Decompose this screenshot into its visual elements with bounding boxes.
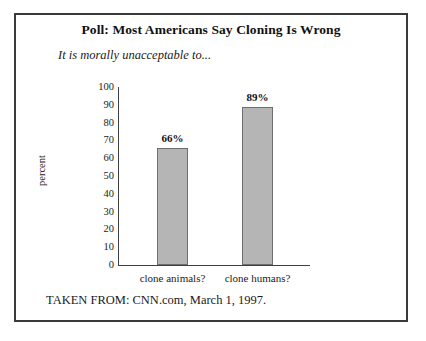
x-category-label: clone humans? — [217, 272, 298, 284]
y-axis-line — [118, 87, 119, 266]
y-axis-tick-labels: 1009080706050403020100 — [86, 15, 114, 320]
bar — [242, 107, 273, 265]
plot-area: 1009080706050403020100 percent 66%clone … — [16, 15, 406, 320]
y-tick-label: 10 — [86, 242, 114, 253]
source-caption: TAKEN FROM: CNN.com, March 1, 1997. — [46, 293, 266, 308]
poll-chart-figure: Poll: Most Americans Say Cloning Is Wron… — [14, 13, 408, 322]
y-tick-label: 0 — [86, 260, 114, 271]
x-category-label: clone animals? — [132, 272, 213, 284]
y-tick-label: 20 — [86, 224, 114, 235]
y-tick-label: 50 — [86, 171, 114, 182]
y-tick-label: 100 — [86, 82, 114, 93]
y-tick-label: 30 — [86, 207, 114, 218]
bar — [157, 148, 188, 265]
y-tick-label: 80 — [86, 118, 114, 129]
y-tick-label: 40 — [86, 189, 114, 200]
y-tick-label: 60 — [86, 153, 114, 164]
bar-value-label: 66% — [137, 132, 208, 144]
y-axis-title: percent — [36, 126, 47, 216]
y-tick-label: 90 — [86, 100, 114, 111]
bar-value-label: 89% — [222, 91, 293, 103]
x-axis-line — [118, 265, 310, 266]
y-tick-label: 70 — [86, 135, 114, 146]
